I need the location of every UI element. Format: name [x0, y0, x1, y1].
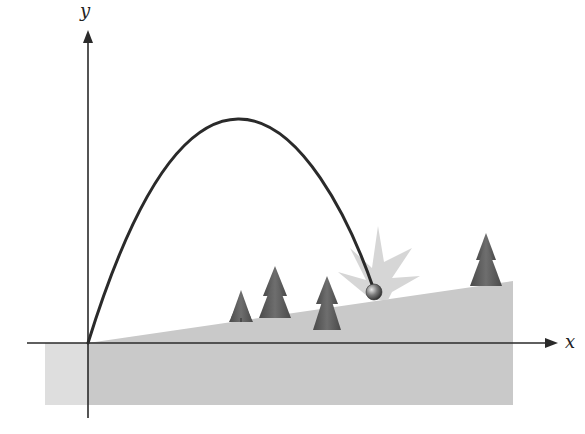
trajectory-curve — [88, 47, 240, 343]
x-axis-arrow-icon — [545, 338, 558, 348]
x-axis-label: x — [565, 331, 575, 352]
tree-1-icon — [229, 290, 253, 322]
projectile-ball — [366, 284, 382, 300]
tree-3-icon — [313, 276, 341, 330]
ground-left-region — [45, 343, 88, 405]
tree-2-icon — [259, 266, 291, 318]
tree-4-icon — [470, 233, 502, 286]
y-axis-label: y — [80, 0, 90, 21]
diagram-canvas — [0, 0, 585, 434]
y-axis-arrow-icon — [83, 30, 93, 43]
projectile-diagram: y x — [0, 0, 585, 434]
